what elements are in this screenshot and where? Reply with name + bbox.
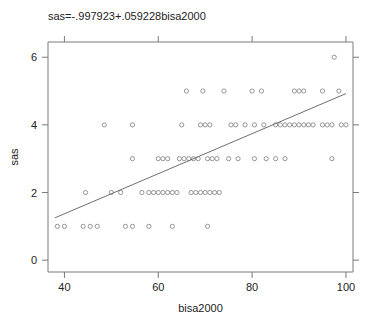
data-point [283, 157, 287, 161]
data-point [81, 224, 85, 228]
data-point [205, 157, 209, 161]
data-point [194, 190, 198, 194]
data-point [236, 157, 240, 161]
data-point [344, 123, 348, 127]
data-point [119, 190, 123, 194]
data-point [320, 89, 324, 93]
data-point [95, 224, 99, 228]
y-tick-label: 0 [31, 254, 37, 266]
data-point [203, 123, 207, 127]
data-point [62, 224, 66, 228]
data-point [212, 190, 216, 194]
data-point [264, 157, 268, 161]
data-point [83, 190, 87, 194]
data-point [184, 89, 188, 93]
data-point [325, 123, 329, 127]
x-tick-label: 40 [58, 281, 70, 293]
data-point [288, 123, 292, 127]
data-point [252, 123, 256, 127]
data-point [311, 123, 315, 127]
data-point [339, 123, 343, 127]
data-point [130, 157, 134, 161]
data-point [337, 89, 341, 93]
data-point [166, 157, 170, 161]
data-point [130, 224, 134, 228]
axis-ticks [42, 36, 359, 278]
data-point [203, 190, 207, 194]
data-point [88, 224, 92, 228]
data-point [175, 190, 179, 194]
y-tick-label: 4 [31, 119, 37, 131]
data-point [147, 224, 151, 228]
data-point [330, 123, 334, 127]
data-point [198, 190, 202, 194]
data-point [215, 157, 219, 161]
data-point [330, 157, 334, 161]
axis-labels: 4060801000246bisa2000sas [8, 51, 355, 314]
data-point [161, 190, 165, 194]
data-point [151, 190, 155, 194]
x-tick-label: 80 [246, 281, 258, 293]
regression-line [55, 94, 346, 218]
data-point [189, 190, 193, 194]
data-point [210, 157, 214, 161]
data-point [227, 157, 231, 161]
data-point [182, 157, 186, 161]
y-tick-label: 2 [31, 187, 37, 199]
data-point [177, 157, 181, 161]
data-point [198, 123, 202, 127]
regression-fit-line [55, 94, 346, 218]
y-axis-label: sas [8, 148, 20, 166]
data-point [201, 89, 205, 93]
data-point [252, 157, 256, 161]
data-point [320, 123, 324, 127]
data-points [55, 55, 348, 228]
data-point [283, 123, 287, 127]
data-point [147, 190, 151, 194]
data-point [222, 89, 226, 93]
data-point [140, 190, 144, 194]
data-point [170, 224, 174, 228]
data-point [180, 123, 184, 127]
data-point [292, 89, 296, 93]
x-tick-label: 100 [337, 281, 355, 293]
data-point [217, 190, 221, 194]
data-point [306, 123, 310, 127]
y-tick-label: 6 [31, 51, 37, 63]
data-point [302, 89, 306, 93]
data-point [161, 157, 165, 161]
data-point [55, 224, 59, 228]
plot-frame [48, 42, 353, 272]
data-point [278, 123, 282, 127]
data-point [292, 123, 296, 127]
data-point [297, 89, 301, 93]
data-point [332, 55, 336, 59]
data-point [156, 157, 160, 161]
data-point [208, 123, 212, 127]
x-tick-label: 60 [152, 281, 164, 293]
data-point [170, 190, 174, 194]
scatter-plot-figure: sas=-.997923+.059228bisa2000 40608010002… [0, 0, 378, 332]
data-point [208, 190, 212, 194]
data-point [166, 190, 170, 194]
data-point [130, 123, 134, 127]
data-point [229, 123, 233, 127]
data-point [156, 190, 160, 194]
data-point [205, 224, 209, 228]
axis-frame [48, 42, 353, 272]
data-point [243, 123, 247, 127]
data-point [123, 224, 127, 228]
data-point [102, 123, 106, 127]
data-point [234, 123, 238, 127]
data-point [297, 123, 301, 127]
data-point [259, 89, 263, 93]
x-axis-label: bisa2000 [178, 302, 223, 314]
plot-canvas: 4060801000246bisa2000sas [0, 0, 378, 332]
data-point [250, 89, 254, 93]
data-point [262, 123, 266, 127]
data-point [273, 157, 277, 161]
data-point [302, 123, 306, 127]
